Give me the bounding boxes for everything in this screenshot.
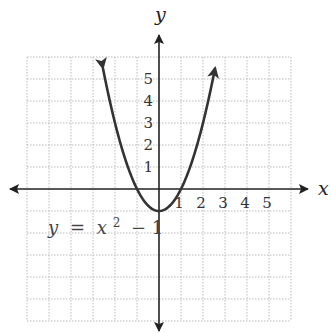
y-tick-label: 5 xyxy=(143,70,153,88)
parabola-chart: 1234512345 y x y = x 2 − 1 xyxy=(0,0,331,333)
tick-labels: 1234512345 xyxy=(143,70,271,212)
y-tick-label: 3 xyxy=(143,114,153,132)
x-tick-label: 4 xyxy=(240,194,250,212)
y-axis-label: y xyxy=(154,3,166,25)
x-tick-label: 2 xyxy=(196,194,206,212)
equation-label: y = x 2 − 1 xyxy=(47,210,163,238)
equation-exponent: 2 xyxy=(113,216,121,230)
equation-equals: = xyxy=(70,217,85,238)
equation-rest: − 1 xyxy=(131,217,163,238)
y-tick-label: 1 xyxy=(143,158,153,176)
x-axis-label: x xyxy=(318,177,329,199)
x-tick-label: 5 xyxy=(262,194,272,212)
equation-x: x xyxy=(97,217,107,238)
equation-y: y xyxy=(47,217,59,238)
y-tick-label: 2 xyxy=(143,136,153,154)
y-tick-label: 4 xyxy=(143,92,153,110)
x-tick-label: 3 xyxy=(218,194,228,212)
